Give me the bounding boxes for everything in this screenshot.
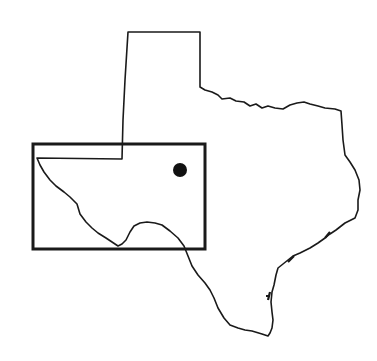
texas-map	[0, 0, 377, 361]
texas-outline	[37, 32, 360, 336]
location-marker-dot	[173, 163, 187, 177]
